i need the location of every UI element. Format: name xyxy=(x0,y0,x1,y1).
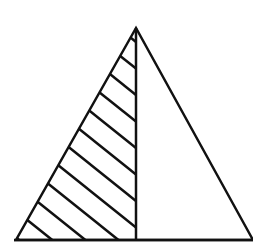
hatch-line xyxy=(58,165,136,227)
hatch-line xyxy=(110,74,136,95)
triangle-diagram xyxy=(0,0,253,244)
hatch-line xyxy=(79,129,136,175)
hatch-line xyxy=(120,56,136,69)
diagram-canvas xyxy=(0,0,253,244)
hatch-line xyxy=(100,92,136,121)
hatch-line xyxy=(69,147,136,201)
hatch-line xyxy=(48,184,119,240)
hatch-lines xyxy=(17,38,136,240)
triangle-outline xyxy=(16,28,253,240)
hatch-line xyxy=(27,220,52,240)
